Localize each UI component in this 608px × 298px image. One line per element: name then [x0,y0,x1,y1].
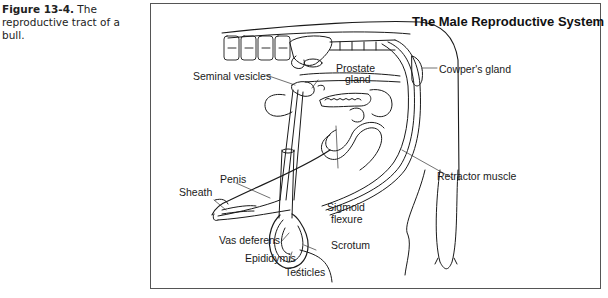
label-sheath: Sheath [179,186,212,198]
label-scrotum: Scrotum [331,239,370,251]
label-retractor-muscle: Retractor muscle [437,170,516,182]
label-testicles: Testicles [285,266,325,278]
label-sigmoid: Sigmoid [327,201,365,213]
vertebrae [224,36,290,60]
label-epididymis: Epididymis [245,252,296,264]
label-vas-deferens: Vas deferens [219,234,280,246]
label-flexure: flexure [331,213,363,225]
label-penis: Penis [220,173,246,185]
label-prostate-gland: gland [345,73,371,85]
diagram-title: The Male Reproductive System [412,14,604,29]
bull-anatomy-illustration [0,0,608,298]
label-seminal-vesicles: Seminal vesicles [193,70,271,82]
label-cowpers-gland: Cowper's gland [439,63,511,75]
